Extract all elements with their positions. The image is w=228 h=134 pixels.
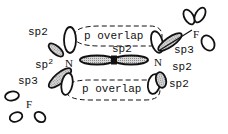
label-sp3-left: sp3 [18,76,38,87]
atom-f-bottom-left: F [26,99,32,110]
f-lone-pair-6 [33,110,48,125]
f-lone-pair-3 [199,33,217,53]
f-lone-pair-4 [4,90,19,101]
label-sp-text: sp [35,59,48,71]
label-sp2-top-left: sp2 [28,27,48,38]
f-lone-pair-2 [192,6,208,24]
label-sp2-center: sp2 [112,44,132,55]
f-lone-pair-5 [8,111,23,124]
sigma-lobe-left [80,56,114,65]
sigma-lobe-right [114,56,148,65]
p-lobe-left-n [64,27,76,53]
label-p-overlap-top: p overlap [84,31,143,42]
n2f2-orbital-diagram: sp2 sp2 N p overlap sp2 N F sp3 sp2 sp2 … [0,0,228,134]
label-sp2-right-b: sp2 [169,79,189,90]
atom-f-top-right: F [193,29,199,40]
label-p-overlap-bottom: p overlap [82,84,141,95]
atom-n-left: N [65,58,73,69]
label-sp2-left: sp2 [35,56,53,71]
atom-n-right: N [154,57,162,68]
label-sp3-right: sp3 [174,45,194,56]
label-sp2-right-a: sp2 [172,62,192,73]
label-sp-sup: 2 [48,57,53,66]
